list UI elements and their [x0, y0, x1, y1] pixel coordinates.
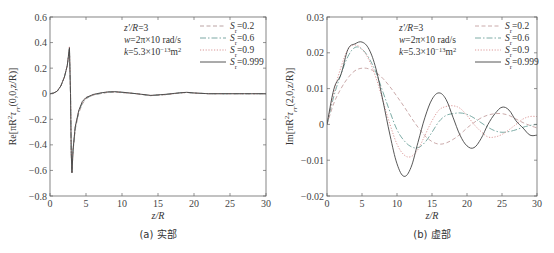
- x-tick-label: 0: [325, 198, 330, 209]
- x-tick-label: 20: [189, 198, 199, 209]
- svg-text:k=5.3×10−13m2: k=5.3×10−13m2: [399, 46, 456, 58]
- panel-a-real-part: 0510152025300.60.40.20−0.2−0.4−0.6−0.8z/…: [6, 12, 271, 241]
- legend: Sr=0.2Sr=0.6Sr=0.9Sr=0.999: [200, 21, 264, 70]
- x-tick-label: 15: [153, 198, 163, 209]
- legend-entry: Sr=0.6: [230, 33, 254, 46]
- x-tick-label: 30: [261, 198, 271, 209]
- x-tick-label: 25: [497, 198, 507, 209]
- x-tick-label: 0: [48, 198, 53, 209]
- legend-entry: Sr=0.2: [230, 21, 254, 34]
- y-tick-label: 0: [42, 88, 47, 99]
- x-tick-label: 10: [117, 198, 127, 209]
- y-tick-label: −0.4: [29, 139, 47, 150]
- y-tick-label: 0.6: [35, 12, 48, 23]
- annotation-block: z'/R=3w=2π×10 rad/sk=5.3×10−13m2: [398, 23, 456, 57]
- legend-entry: Sr=0.9: [230, 45, 254, 58]
- legend-entry: Sr=0.999: [230, 57, 264, 70]
- svg-text:z'/R=3: z'/R=3: [123, 23, 149, 33]
- svg-text:z'/R=3: z'/R=3: [398, 23, 424, 33]
- x-tick-label: 5: [84, 198, 89, 209]
- y-tick-label: 0: [319, 119, 324, 130]
- x-tick-label: 30: [532, 198, 542, 209]
- x-axis-label: z/R: [151, 210, 165, 221]
- figure: 0510152025300.60.40.20−0.2−0.4−0.6−0.8z/…: [0, 0, 554, 253]
- y-tick-label: 0.02: [307, 47, 325, 58]
- y-tick-label: 0.01: [307, 83, 325, 94]
- legend-entry: Sr=0.9: [505, 45, 529, 58]
- y-tick-label: −0.01: [301, 155, 324, 166]
- y-tick-label: 0.2: [35, 63, 48, 74]
- panel-b-imaginary-part: 0510152025300.030.020.010−0.01−0.02z/RIm…: [283, 12, 542, 241]
- legend: Sr=0.2Sr=0.6Sr=0.9Sr=0.999: [475, 21, 539, 70]
- panel-caption: (b) 虚部: [413, 228, 450, 240]
- x-tick-label: 5: [360, 198, 365, 209]
- x-axis-label: z/R: [425, 210, 439, 221]
- y-axis-label: Im[πR2τrr(2,0,z/R)]: [283, 68, 299, 146]
- x-tick-label: 20: [462, 198, 472, 209]
- y-tick-label: −0.02: [301, 191, 324, 202]
- svg-text:w=2π×10 rad/s: w=2π×10 rad/s: [124, 35, 181, 45]
- svg-text:k=5.3×10−13m2: k=5.3×10−13m2: [124, 46, 181, 58]
- legend-entry: Sr=0.6: [505, 33, 529, 46]
- legend-entry: Sr=0.999: [505, 57, 539, 70]
- legend-entry: Sr=0.2: [505, 21, 529, 34]
- y-axis-label: Re[πR2τrr(0,0,z/R)]: [6, 68, 22, 146]
- y-tick-label: 0.03: [307, 12, 325, 23]
- x-tick-label: 25: [225, 198, 235, 209]
- svg-text:w=2π×10 rad/s: w=2π×10 rad/s: [399, 35, 456, 45]
- y-tick-label: −0.6: [29, 165, 47, 176]
- panel-caption: (a) 实部: [139, 228, 176, 240]
- y-tick-label: −0.8: [29, 191, 47, 202]
- x-tick-label: 10: [392, 198, 402, 209]
- annotation-block: z'/R=3w=2π×10 rad/sk=5.3×10−13m2: [123, 23, 181, 57]
- y-tick-label: 0.4: [35, 37, 48, 48]
- y-tick-label: −0.2: [29, 114, 47, 125]
- series-line: [50, 49, 266, 170]
- x-tick-label: 15: [427, 198, 437, 209]
